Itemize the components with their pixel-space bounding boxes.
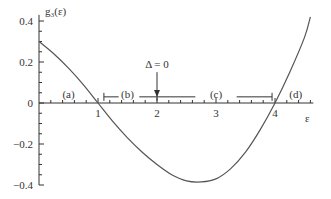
y-tick-label: −0.4 (13, 179, 33, 191)
annotations: Δ = 0(a)(b)(c)(d) (62, 58, 302, 101)
y-tick-label: −0.2 (13, 138, 33, 150)
x-tick-label: 1 (95, 107, 101, 119)
x-tick-label: 2 (154, 107, 160, 119)
region-label: (a) (62, 88, 75, 101)
delta-zero-label: Δ = 0 (145, 58, 169, 70)
y-tick-label: 0.4 (19, 15, 33, 27)
chart: 0.40.20−0.2−0.41234 Δ = 0(a)(b)(c)(d) g₃… (0, 0, 331, 199)
y-tick-label: 0.2 (19, 56, 33, 68)
arrowhead-icon (154, 90, 160, 97)
region-label: (b) (121, 88, 134, 101)
x-axis-label: ε (305, 112, 310, 124)
y-tick-label: 0 (28, 97, 34, 109)
region-label: (c) (210, 88, 223, 101)
x-tick-label: 4 (272, 107, 278, 119)
x-tick-label: 3 (213, 107, 219, 119)
y-axis-label: g₃(ε) (45, 5, 67, 18)
region-label: (d) (289, 88, 302, 101)
g3-curve (39, 17, 310, 182)
